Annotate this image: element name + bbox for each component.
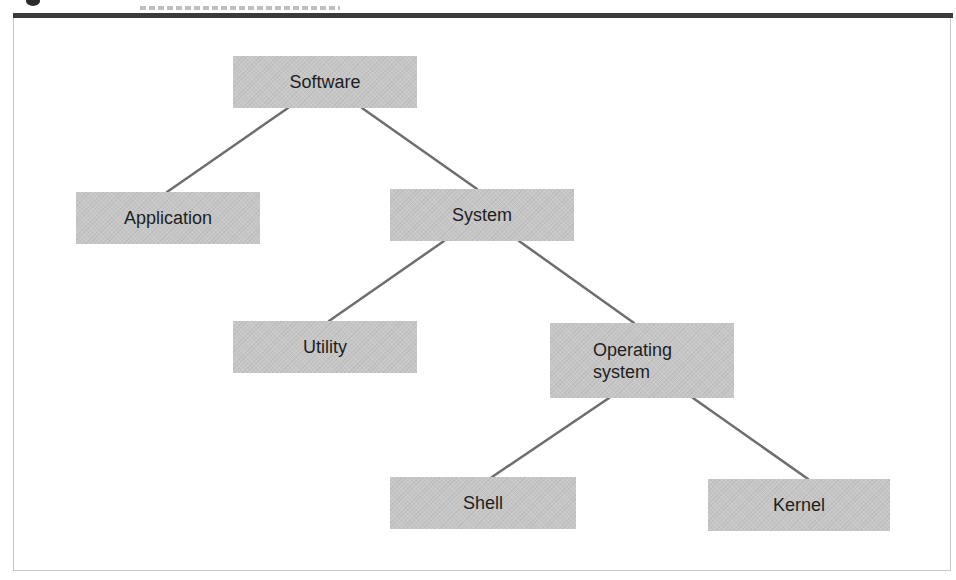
node-label-application: Application bbox=[124, 207, 212, 229]
edge-operating-system-kernel bbox=[693, 398, 808, 479]
edge-software-system bbox=[362, 108, 477, 189]
edge-software-application bbox=[167, 108, 288, 192]
node-software: Software bbox=[233, 56, 417, 108]
node-label-kernel: Kernel bbox=[773, 494, 825, 516]
edge-system-operating-system bbox=[519, 241, 634, 323]
node-label-system: System bbox=[452, 204, 512, 226]
node-shell: Shell bbox=[390, 477, 576, 529]
node-label-software: Software bbox=[289, 71, 360, 93]
node-operating-system: Operating system bbox=[550, 323, 734, 398]
node-kernel: Kernel bbox=[708, 479, 890, 531]
node-label-operating-system: Operating system bbox=[593, 339, 672, 383]
node-label-utility: Utility bbox=[303, 336, 347, 358]
edge-system-utility bbox=[329, 241, 444, 321]
node-application: Application bbox=[76, 192, 260, 244]
node-system: System bbox=[390, 189, 574, 241]
edge-operating-system-shell bbox=[492, 398, 609, 477]
node-utility: Utility bbox=[233, 321, 417, 373]
node-label-shell: Shell bbox=[463, 492, 503, 514]
